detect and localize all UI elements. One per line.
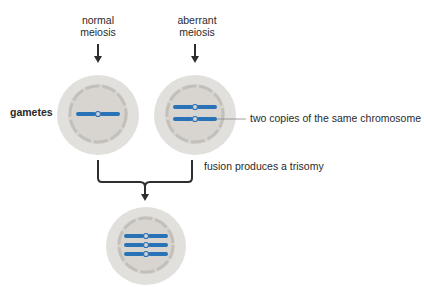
arrow-down-aberrant-icon <box>191 44 199 63</box>
normal-gamete-cell <box>57 75 139 155</box>
arrow-down-normal-icon <box>94 44 102 63</box>
trisomic-zygote-cell <box>106 207 186 285</box>
diagram-canvas <box>0 0 424 287</box>
aberrant-gamete-cell <box>154 75 236 155</box>
fusion-bracket-icon <box>98 160 192 201</box>
